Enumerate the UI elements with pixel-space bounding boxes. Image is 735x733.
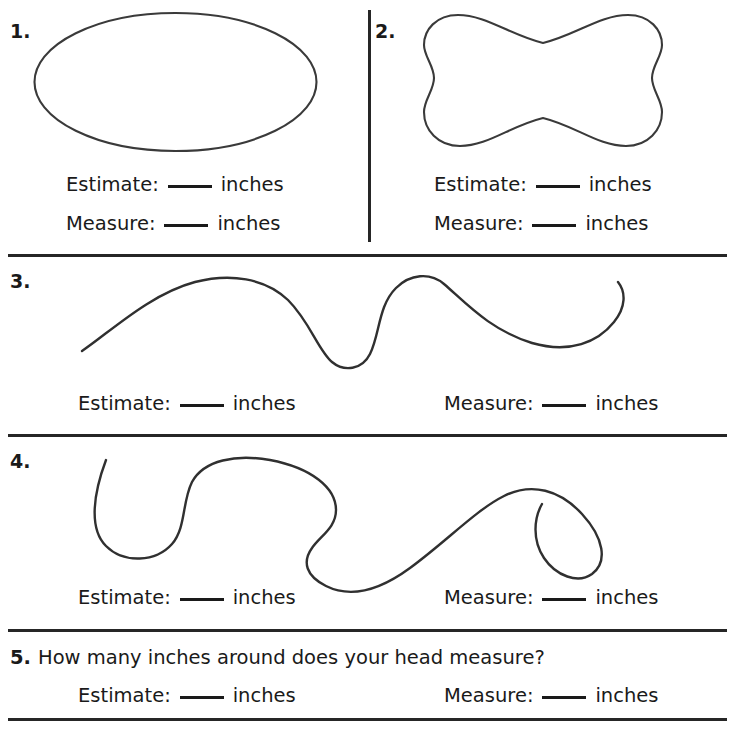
estimate-unit: inches: [233, 588, 296, 608]
divider-rule-4: [8, 718, 727, 721]
divider-rule-1: [8, 254, 727, 257]
estimate-label: Estimate:: [78, 394, 171, 414]
problem-3-measure-row: Measure: inches: [444, 394, 658, 414]
estimate-label: Estimate:: [78, 686, 171, 706]
estimate-unit: inches: [589, 175, 652, 195]
estimate-blank[interactable]: [180, 696, 224, 699]
problem-5-measure-row: Measure: inches: [444, 686, 658, 706]
measure-unit: inches: [595, 686, 658, 706]
measure-label: Measure:: [434, 214, 523, 234]
worksheet-page: 1. Estimate: inches Measure: inches 2. E…: [0, 0, 735, 733]
problem-1-estimate-row: Estimate: inches: [66, 175, 284, 195]
measure-label: Measure:: [444, 686, 533, 706]
measure-blank[interactable]: [542, 696, 586, 699]
estimate-blank[interactable]: [536, 185, 580, 188]
measure-label: Measure:: [444, 588, 533, 608]
measure-unit: inches: [595, 394, 658, 414]
measure-unit: inches: [217, 214, 280, 234]
measure-unit: inches: [585, 214, 648, 234]
problem-2-measure-row: Measure: inches: [434, 214, 648, 234]
divider-rule-2: [8, 434, 727, 437]
estimate-blank[interactable]: [180, 404, 224, 407]
problem-1-figure-ellipse: [28, 8, 323, 158]
divider-rule-3: [8, 629, 727, 632]
estimate-label: Estimate:: [78, 588, 171, 608]
problem-4-measure-row: Measure: inches: [444, 588, 658, 608]
problem-1-measure-row: Measure: inches: [66, 214, 280, 234]
estimate-blank[interactable]: [180, 598, 224, 601]
estimate-label: Estimate:: [434, 175, 527, 195]
vertical-divider: [368, 10, 371, 242]
measure-blank[interactable]: [532, 224, 576, 227]
estimate-unit: inches: [233, 394, 296, 414]
problem-3-estimate-row: Estimate: inches: [78, 394, 296, 414]
problem-2-number: 2.: [375, 22, 395, 41]
problem-2-figure-bowtie: [418, 8, 668, 153]
measure-blank[interactable]: [542, 404, 586, 407]
problem-5-number: 5.: [10, 648, 31, 668]
problem-5-question-row: 5. How many inches around does your head…: [10, 648, 545, 668]
problem-4-figure-curve: [80, 452, 650, 572]
estimate-unit: inches: [233, 686, 296, 706]
measure-label: Measure:: [66, 214, 155, 234]
problem-2-estimate-row: Estimate: inches: [434, 175, 652, 195]
estimate-unit: inches: [221, 175, 284, 195]
estimate-label: Estimate:: [66, 175, 159, 195]
measure-label: Measure:: [444, 394, 533, 414]
problem-4-estimate-row: Estimate: inches: [78, 588, 296, 608]
problem-5-estimate-row: Estimate: inches: [78, 686, 296, 706]
measure-unit: inches: [595, 588, 658, 608]
problem-3-number: 3.: [10, 272, 30, 291]
measure-blank[interactable]: [164, 224, 208, 227]
problem-3-figure-curve: [70, 266, 640, 376]
problem-4-number: 4.: [10, 452, 30, 471]
measure-blank[interactable]: [542, 598, 586, 601]
problem-5-question-text: How many inches around does your head me…: [38, 648, 545, 668]
estimate-blank[interactable]: [168, 185, 212, 188]
